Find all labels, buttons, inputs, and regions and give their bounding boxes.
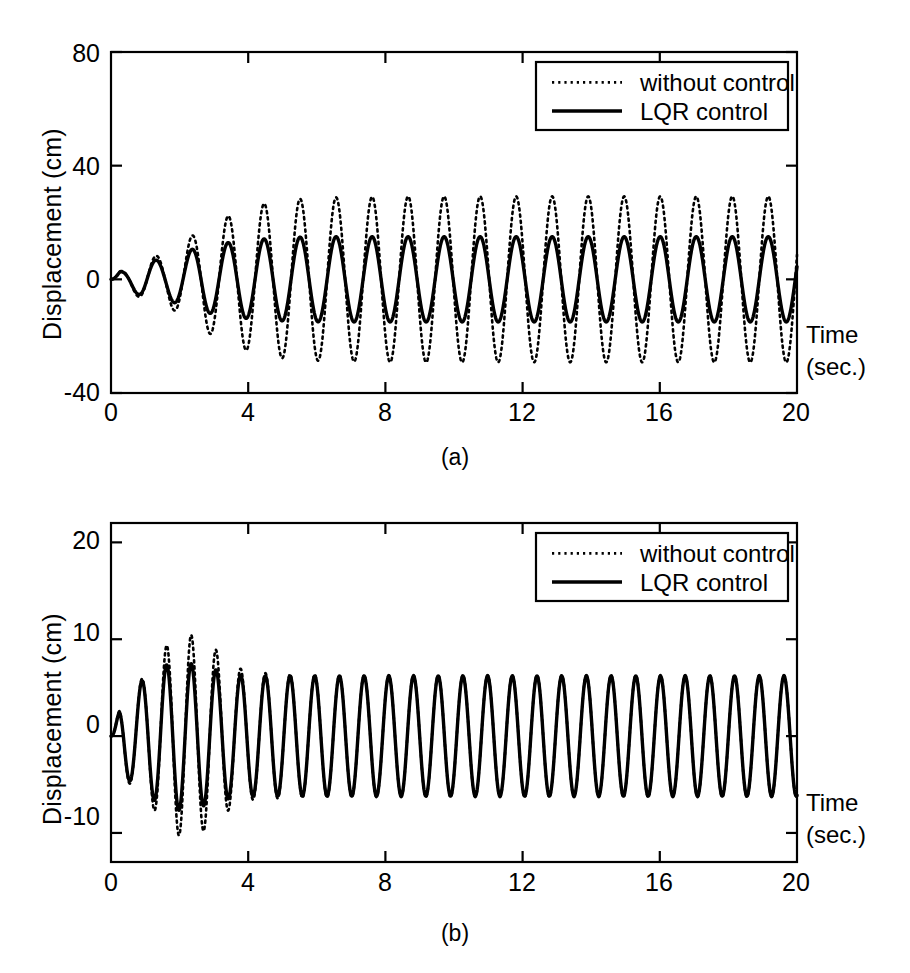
- y-tick-label-b-10: 10: [40, 618, 100, 647]
- x-tick-label-b-20: 20: [768, 868, 824, 897]
- x-tick-label-b-8: 8: [357, 868, 413, 897]
- legend-label-lqr-control: LQR control: [640, 98, 768, 125]
- x-tick-label-a-20: 20: [768, 398, 824, 427]
- panel-caption-b: (b): [0, 920, 910, 947]
- x-tick-label-a-0: 0: [83, 398, 139, 427]
- x-tick-label-a-4: 4: [220, 398, 276, 427]
- series-without-control: [111, 635, 797, 835]
- chart-panel-b: without controlLQR control Displacement …: [0, 490, 910, 973]
- y-tick-label-a-0: 0: [40, 265, 100, 294]
- x-axis-label-b-line1: Time: [806, 788, 858, 818]
- y-tick-label-a-40: 40: [40, 152, 100, 181]
- x-tick-label-a-8: 8: [357, 398, 413, 427]
- x-tick-label-b-16: 16: [631, 868, 687, 897]
- y-tick-label-a-80: 80: [40, 39, 100, 68]
- legend-label-without-control: without control: [639, 69, 795, 96]
- x-tick-label-b-12: 12: [494, 868, 550, 897]
- legend-label-lqr-control: LQR control: [640, 569, 768, 596]
- x-axis-label-a-line1: Time: [806, 320, 858, 350]
- x-axis-label-a-line2: (sec.): [806, 352, 866, 382]
- legend: without controlLQR control: [536, 533, 795, 601]
- x-axis-label-b-line2: (sec.): [806, 820, 866, 850]
- legend: without controlLQR control: [536, 62, 795, 130]
- y-tick-label-b-20: 20: [40, 526, 100, 555]
- plot-area-b: without controlLQR control: [0, 490, 910, 973]
- series-lqr-control: [111, 664, 797, 811]
- x-tick-label-a-12: 12: [494, 398, 550, 427]
- y-tick-label-b-0: 0: [40, 710, 100, 739]
- figure-two-panel-displacement: without controlLQR control Displacement …: [0, 0, 910, 973]
- y-tick-label-b-neg10: -10: [32, 802, 100, 831]
- panel-caption-a: (a): [0, 444, 910, 471]
- x-tick-label-a-16: 16: [631, 398, 687, 427]
- x-tick-label-b-0: 0: [83, 868, 139, 897]
- x-tick-label-b-4: 4: [220, 868, 276, 897]
- legend-label-without-control: without control: [639, 540, 795, 567]
- chart-panel-a: without controlLQR control Displacement …: [0, 0, 910, 490]
